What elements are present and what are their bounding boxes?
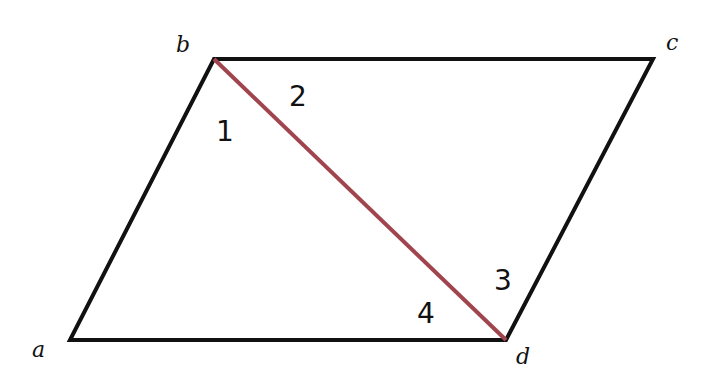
vertex-label-b: b	[176, 32, 190, 57]
vertex-label-a: a	[32, 337, 45, 362]
angle-label-1: 1	[216, 115, 234, 148]
angle-label-4: 4	[417, 297, 435, 330]
parallelogram-diagram: a b c d 1 2 3 4	[0, 0, 709, 389]
vertex-label-d: d	[516, 344, 530, 369]
vertex-label-c: c	[666, 30, 678, 55]
diagonal-bd	[214, 59, 506, 340]
angle-label-3: 3	[494, 264, 512, 297]
angle-label-2: 2	[289, 80, 307, 113]
